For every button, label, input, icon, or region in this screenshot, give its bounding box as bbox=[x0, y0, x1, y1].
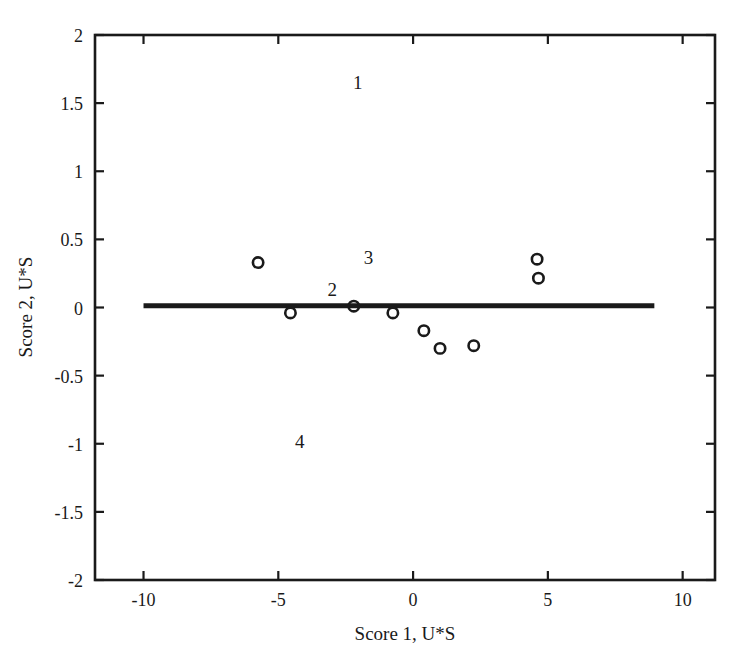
y-tick-label: -1.5 bbox=[55, 503, 84, 523]
y-axis-label: Score 2, U*S bbox=[15, 257, 36, 358]
y-tick-label: 1 bbox=[74, 162, 83, 182]
x-tick-label: 5 bbox=[543, 590, 552, 610]
x-tick-label: 0 bbox=[409, 590, 418, 610]
y-tick-label: 1.5 bbox=[61, 94, 84, 114]
y-tick-label: -0.5 bbox=[55, 367, 84, 387]
annotation-label: 3 bbox=[364, 247, 374, 268]
plot-canvas: -10-50510 -2-1.5-1-0.500.511.52 1234 Sco… bbox=[0, 0, 739, 653]
x-tick-label: -10 bbox=[132, 590, 156, 610]
figure-background bbox=[0, 0, 739, 653]
annotation-label: 2 bbox=[327, 279, 337, 300]
y-tick-label: 0 bbox=[74, 299, 83, 319]
y-tick-label: -2 bbox=[68, 571, 83, 591]
x-tick-label: 10 bbox=[674, 590, 692, 610]
annotation-label: 4 bbox=[295, 431, 305, 452]
x-axis-label: Score 1, U*S bbox=[355, 623, 456, 644]
annotation-label: 1 bbox=[353, 72, 363, 93]
y-tick-label: 2 bbox=[74, 26, 83, 46]
x-tick-label: -5 bbox=[271, 590, 286, 610]
y-tick-label: 0.5 bbox=[61, 230, 84, 250]
y-tick-label: -1 bbox=[68, 435, 83, 455]
scatter-plot-figure: -10-50510 -2-1.5-1-0.500.511.52 1234 Sco… bbox=[0, 0, 739, 653]
